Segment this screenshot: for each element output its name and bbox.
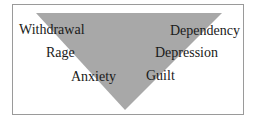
label-rage: Rage xyxy=(46,46,75,60)
label-anxiety: Anxiety xyxy=(71,70,116,84)
label-depression: Depression xyxy=(155,46,218,60)
label-dependency: Dependency xyxy=(170,24,240,38)
label-guilt: Guilt xyxy=(146,69,175,83)
label-withdrawal: Withdrawal xyxy=(19,23,85,37)
inverted-triangle xyxy=(0,0,256,123)
